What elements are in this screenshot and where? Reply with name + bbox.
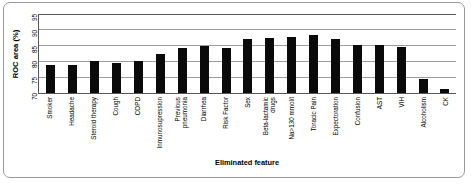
y-axis-tick-label: 95	[32, 14, 38, 21]
bar	[46, 65, 55, 93]
y-axis-tick-label: 70	[32, 93, 38, 100]
bar-slot	[128, 14, 150, 93]
bar-slot	[390, 14, 412, 93]
bar-slot	[62, 14, 84, 93]
bar	[112, 63, 121, 93]
x-axis-tick-label: Na>130 mmol/l	[289, 97, 296, 140]
bar-slot	[215, 14, 237, 93]
bar	[440, 89, 449, 93]
bar-slot	[325, 14, 347, 93]
bar	[68, 65, 77, 93]
x-axis-tick-label: Previouspneumonia	[175, 97, 188, 128]
x-axis-tick-label: Risk Factor	[223, 97, 230, 129]
bar-slot	[368, 14, 390, 93]
bar-slot	[412, 14, 434, 93]
x-axis-tick: Headache	[61, 96, 83, 158]
x-axis-tick: Sex	[237, 96, 259, 158]
bar	[287, 37, 296, 93]
bar	[419, 79, 428, 93]
x-axis-tick: Expectoration	[325, 96, 347, 158]
x-axis-tick: Previouspneumonia	[171, 96, 193, 158]
y-axis-tick-label: 80	[32, 61, 38, 68]
bar-slot	[281, 14, 303, 93]
bar-slot	[303, 14, 325, 93]
x-axis-tick: Confusion	[347, 96, 369, 158]
x-axis-tick: Steroid therapy	[83, 96, 105, 158]
bar	[309, 35, 318, 93]
x-axis-tick: VIH	[391, 96, 413, 158]
bar	[331, 39, 340, 93]
x-axis-title: Eliminated feature	[38, 158, 456, 167]
y-axis-tick-label: 75	[32, 77, 38, 84]
plot-area: 707580859095	[38, 14, 456, 94]
x-axis-tick-label: AST	[377, 97, 384, 109]
x-axis-tick: Inmunosupression	[149, 96, 171, 158]
y-axis-tick-label: 90	[32, 30, 38, 37]
x-axis-tick: Na>130 mmol/l	[281, 96, 303, 158]
bar-slot	[84, 14, 106, 93]
x-axis-tick-label: Cough	[113, 97, 120, 116]
bar	[397, 47, 406, 93]
bar-slot	[237, 14, 259, 93]
bar-slot	[40, 14, 62, 93]
x-axis-tick: Diarrhea	[193, 96, 215, 158]
y-axis-title-text: ROC area (%)	[13, 30, 21, 79]
x-axis-tick-label: Confusion	[355, 97, 362, 125]
bar-slot	[259, 14, 281, 93]
x-axis-tick-label: Toracic Pain	[311, 97, 318, 131]
bar-slot	[171, 14, 193, 93]
x-axis-tick: Risk Factor	[215, 96, 237, 158]
x-axis-tick-label: Diarrhea	[201, 97, 208, 121]
x-axis-tick-label: Inmunosupression	[157, 97, 164, 148]
bar	[375, 45, 384, 93]
x-axis-tick-label: Sex	[245, 97, 252, 108]
figure-frame: ROC area (%) 707580859095 SmokerHeadache…	[3, 2, 465, 178]
x-axis-tick-label: Beta-lactamicdrugs	[263, 97, 276, 135]
bar	[243, 39, 252, 93]
bar	[156, 54, 165, 94]
bar	[265, 38, 274, 93]
x-axis-tick: CK	[435, 96, 457, 158]
bar	[178, 48, 187, 93]
x-axis-tick: Cough	[105, 96, 127, 158]
x-axis-tick-labels: SmokerHeadacheSteroid therapyCoughCOPDIn…	[39, 96, 457, 158]
bar	[90, 61, 99, 93]
bar	[353, 45, 362, 93]
y-axis-tick-label: 85	[32, 46, 38, 53]
x-axis-tick: Smoker	[39, 96, 61, 158]
y-axis-title: ROC area (%)	[11, 14, 22, 94]
x-axis-tick-label: CK	[443, 97, 450, 106]
bar-slot	[434, 14, 456, 93]
x-axis-tick-label: Steroid therapy	[91, 97, 98, 140]
bar	[134, 61, 143, 93]
bar-slot	[106, 14, 128, 93]
x-axis-tick: COPD	[127, 96, 149, 158]
x-axis-tick-label: Alcoholism	[421, 97, 428, 127]
bar-series	[40, 14, 456, 93]
bar-slot	[149, 14, 171, 93]
x-axis-tick-label: Smoker	[47, 97, 54, 119]
x-axis-tick-label: Headache	[69, 97, 76, 126]
bar	[222, 48, 231, 93]
bar-slot	[193, 14, 215, 93]
x-axis-tick-label: Expectoration	[333, 97, 340, 136]
bar	[200, 46, 209, 93]
x-axis-tick: Toracic Pain	[303, 96, 325, 158]
x-axis-tick: AST	[369, 96, 391, 158]
x-axis-tick: Beta-lactamicdrugs	[259, 96, 281, 158]
x-axis-tick-label: COPD	[135, 97, 142, 115]
x-axis-tick: Alcoholism	[413, 96, 435, 158]
bar-slot	[346, 14, 368, 93]
x-axis-tick-label: VIH	[399, 97, 406, 108]
